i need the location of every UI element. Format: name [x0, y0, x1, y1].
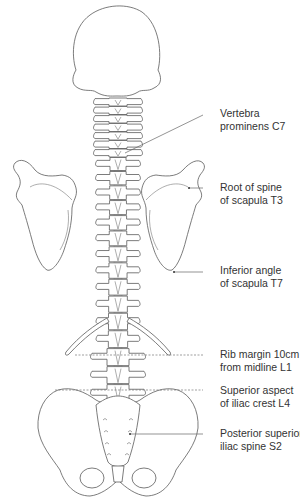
cervical-vertebra [94, 115, 143, 123]
right-obturator-foramen [132, 468, 156, 488]
label-line: Vertebra [220, 107, 285, 120]
label-line: Posterior superior [220, 427, 300, 440]
thoracic-vertebra [96, 201, 141, 215]
cervical-vertebra [94, 149, 143, 157]
vertebral-column [91, 98, 146, 438]
cervical-vertebra [94, 107, 143, 115]
thoracic-vertebra [96, 216, 141, 230]
vertebra-outline [96, 331, 140, 348]
s2-point [129, 433, 131, 435]
skull [73, 6, 161, 96]
t7-point [173, 271, 175, 273]
label-line: Rib margin 10cm [220, 348, 299, 361]
label-rib-margin: Rib margin 10cm from midline L1 [220, 348, 299, 374]
cervical-vertebra [94, 98, 143, 106]
lumbar-vertebra [91, 349, 146, 366]
thoracic-vertebra [96, 172, 141, 185]
left-scapula [14, 160, 77, 270]
cervical-vertebra [94, 132, 143, 140]
label-line: of scapula T7 [220, 277, 283, 290]
thoracic-vertebra [96, 158, 141, 171]
thoracic-vertebra [96, 279, 140, 295]
lumbar-vertebra [91, 367, 146, 384]
label-line: Superior aspect [220, 384, 294, 397]
vertebra-outline [96, 263, 140, 278]
vertebra-outline [96, 279, 140, 295]
label-iliac-crest: Superior aspect of iliac crest L4 [220, 384, 294, 410]
label-line: of iliac crest L4 [220, 397, 294, 410]
thoracic-vertebra [96, 231, 141, 246]
label-line: of scapula T3 [220, 194, 283, 207]
label-line: prominens C7 [220, 120, 285, 133]
vertebra-outline [91, 349, 146, 366]
left-obturator-foramen [80, 468, 104, 488]
thoracic-vertebra [96, 296, 140, 312]
label-root-of-spine: Root of spine of scapula T3 [220, 181, 283, 207]
cervical-vertebra [94, 141, 143, 149]
cervical-vertebra [94, 124, 143, 132]
label-vertebra-prominens: Vertebra prominens C7 [220, 107, 285, 133]
coccyx [112, 466, 124, 482]
right-scapula [142, 161, 205, 270]
t3-point [188, 187, 190, 189]
thoracic-vertebra [96, 331, 140, 348]
label-line: Inferior angle [220, 264, 283, 277]
thoracic-vertebra [96, 186, 141, 200]
label-posterior-superior-iliac-spine: Posterior superior iliac spine S2 [220, 427, 300, 453]
label-inferior-angle: Inferior angle of scapula T7 [220, 264, 283, 290]
label-line: from midline L1 [220, 361, 299, 374]
vertebra-outline [96, 296, 140, 312]
vertebra-outline [96, 247, 140, 262]
vertebra-outline [91, 367, 146, 384]
label-line: Root of spine [220, 181, 283, 194]
thoracic-vertebra [96, 263, 140, 278]
label-line: iliac spine S2 [220, 440, 300, 453]
thoracic-vertebra [96, 247, 140, 262]
